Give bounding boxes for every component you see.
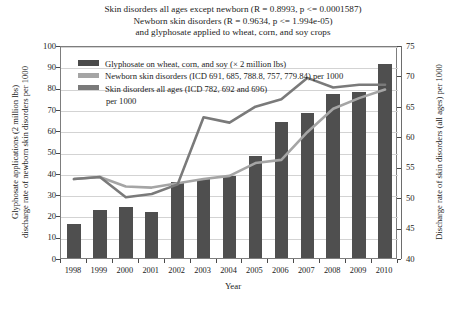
chart-legend: Glyphosate on wheat, corn, and soy (× 2 … [78, 58, 343, 108]
y-axis-right-tick-label: 55 [406, 163, 432, 172]
y-axis-left-tick-mark [56, 216, 60, 217]
chart-figure: Skin disorders all ages except newborn (… [0, 0, 466, 311]
x-axis-tick-mark [241, 259, 242, 263]
x-axis-tick-mark [60, 259, 61, 263]
x-axis-tick-mark [112, 259, 113, 263]
y-axis-right-tick-label: 70 [406, 72, 432, 81]
y-axis-left-tick-label: 80 [30, 84, 56, 93]
y-axis-left-tick-mark [56, 153, 60, 154]
y-axis-right-tick-label: 45 [406, 224, 432, 233]
x-axis-tick-mark [190, 259, 191, 263]
x-axis-tick-mark [216, 259, 217, 263]
legend-label-all-ages-line2: per 1000 [106, 95, 136, 107]
y-axis-left-tick-label: 100 [30, 42, 56, 51]
y-axis-left-tick-mark [56, 110, 60, 111]
y-axis-left-tick-mark [56, 46, 60, 47]
y-axis-left-title-line-2: discharge rate of newborn skin disorders… [20, 46, 30, 258]
x-axis-title: Year [0, 281, 466, 291]
y-axis-right-tick-mark [397, 76, 401, 77]
y-axis-left-title: Glyphosate applications (2 million lbs) … [10, 46, 31, 258]
y-axis-left-tick-label: 20 [30, 212, 56, 221]
chart-title-line-2: Newborn skin disorders (R = 0.9634, p <=… [0, 16, 466, 28]
y-axis-left-tick-mark [56, 89, 60, 90]
y-axis-left-tick-mark [56, 67, 60, 68]
y-axis-right-tick-mark [397, 198, 401, 199]
legend-label-all-ages: Skin disorders all ages (ICD 782, 692 an… [105, 83, 267, 95]
y-axis-right-tick-mark [397, 46, 401, 47]
y-axis-right-tick-mark [397, 229, 401, 230]
y-axis-right-tick-mark [397, 168, 401, 169]
x-axis-tick-mark [319, 259, 320, 263]
y-axis-right-tick-mark [397, 107, 401, 108]
line-swatch-all-ages-icon [78, 85, 99, 90]
y-axis-left-tick-label: 10 [30, 233, 56, 242]
y-axis-right-title: Discharge rate of skin disorders (all ag… [434, 46, 444, 258]
y-axis-left-tick-label: 40 [30, 170, 56, 179]
y-axis-left-title-line-1: Glyphosate applications (2 million lbs) [10, 46, 20, 258]
x-axis-tick-mark [164, 259, 165, 263]
x-axis-tick-mark [371, 259, 372, 263]
y-axis-right-tick-label: 65 [406, 103, 432, 112]
y-axis-right-tick-label: 60 [406, 133, 432, 142]
y-axis-left-tick-label: 60 [30, 127, 56, 136]
y-axis-right-tick-label: 40 [406, 255, 432, 264]
legend-item-glyphosate: Glyphosate on wheat, corn, and soy (× 2 … [78, 58, 343, 70]
x-axis-tick-mark [345, 259, 346, 263]
line-swatch-newborn-icon [78, 73, 99, 78]
chart-title-line-3: and glyphosate applied to wheat, corn, a… [0, 27, 466, 39]
x-axis-tick-mark [86, 259, 87, 263]
y-axis-left-tick-mark [56, 174, 60, 175]
y-axis-left-tick-mark [56, 238, 60, 239]
x-axis-tick-mark [138, 259, 139, 263]
y-axis-left-tick-label: 90 [30, 63, 56, 72]
y-axis-left-tick-label: 70 [30, 106, 56, 115]
chart-title: Skin disorders all ages except newborn (… [0, 4, 466, 39]
y-axis-right-tick-mark [397, 137, 401, 138]
x-axis-tick-label: 2010 [364, 266, 404, 275]
right-axis-line [401, 46, 402, 259]
x-axis-tick-mark [267, 259, 268, 263]
legend-label-glyphosate: Glyphosate on wheat, corn, and soy (× 2 … [105, 58, 286, 70]
legend-item-all-ages: Skin disorders all ages (ICD 782, 692 an… [78, 83, 343, 95]
y-axis-right-tick-label: 75 [406, 42, 432, 51]
y-axis-left-tick-label: 50 [30, 148, 56, 157]
y-axis-left-tick-mark [56, 195, 60, 196]
x-axis-tick-mark [397, 259, 398, 263]
legend-item-all-ages-cont: per 1000 [78, 95, 343, 107]
legend-item-newborn: Newborn skin disorders (ICD 691, 685, 78… [78, 70, 343, 82]
y-axis-right-tick-label: 50 [406, 194, 432, 203]
x-axis-tick-mark [293, 259, 294, 263]
y-axis-left-tick-mark [56, 131, 60, 132]
chart-title-line-1: Skin disorders all ages except newborn (… [0, 4, 466, 16]
y-axis-left-tick-label: 30 [30, 191, 56, 200]
legend-label-newborn: Newborn skin disorders (ICD 691, 685, 78… [105, 70, 343, 82]
y-axis-left-tick-label: 0 [30, 255, 56, 264]
bar-swatch-icon [78, 60, 99, 66]
